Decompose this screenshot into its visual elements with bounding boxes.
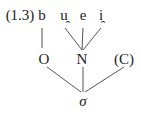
nucleus-node: N [77,52,88,67]
segment-e: e [80,8,87,23]
segment-i: i̯ [99,8,103,23]
onset-node: O [39,52,50,67]
example-number: (1.3) [6,8,35,23]
coda-node: (C) [114,52,134,67]
syllable-root-node: σ [79,94,86,109]
segment-b: b [38,8,46,23]
segment-u: u̯ [60,8,68,23]
